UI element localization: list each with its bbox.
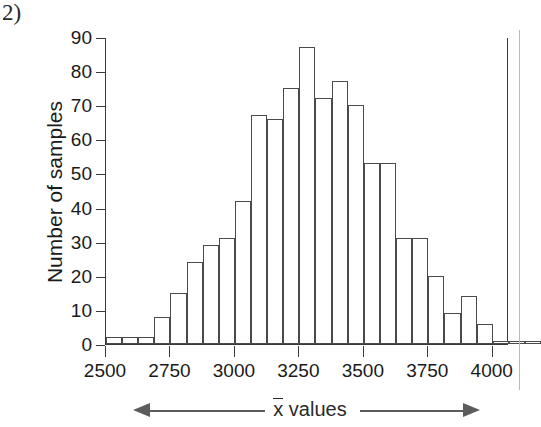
y-axis-tick-label: 50 <box>48 164 92 183</box>
histogram-bar <box>267 119 283 344</box>
histogram-bar <box>396 238 412 344</box>
y-axis-tick-label: 30 <box>48 233 92 252</box>
histogram-bar <box>122 337 138 344</box>
y-axis-tick <box>96 72 105 73</box>
histogram-bar <box>477 324 493 344</box>
y-axis-tick-label: 70 <box>48 96 92 115</box>
histogram-bar <box>251 115 267 344</box>
x-axis-annotation-label: x values <box>245 397 375 421</box>
x-axis-tick-label: 2750 <box>134 360 204 382</box>
histogram-bar <box>203 245 219 344</box>
x-axis-tick-label: 4000 <box>457 360 527 382</box>
y-axis-tick <box>96 174 105 175</box>
x-bar-symbol: x <box>273 397 283 421</box>
histogram-bar <box>332 81 348 344</box>
x-axis-tick <box>169 346 170 357</box>
y-axis-tick-label: 40 <box>48 199 92 218</box>
x-axis-tick-label: 3500 <box>328 360 398 382</box>
histogram-bar <box>106 337 122 344</box>
x-axis-annotation: x values <box>105 398 508 427</box>
histogram-bar <box>187 262 203 344</box>
histogram-bar <box>299 47 315 344</box>
y-axis-tick-label: 90 <box>48 28 92 47</box>
x-axis-tick <box>492 346 493 357</box>
right-arrow-icon <box>463 403 480 417</box>
left-arrow-icon <box>133 403 150 417</box>
y-axis-tick <box>96 243 105 244</box>
y-axis-tick-label: 10 <box>48 301 92 320</box>
histogram-bar <box>283 88 299 344</box>
histogram-bar <box>315 98 331 344</box>
y-axis-tick <box>96 140 105 141</box>
x-axis-tick <box>298 346 299 357</box>
histogram-bar <box>235 201 251 344</box>
plot-area <box>105 38 508 345</box>
x-axis-tick-label: 2500 <box>70 360 140 382</box>
histogram-bar <box>154 317 170 344</box>
x-axis-tick <box>105 346 106 357</box>
x-axis-tick-label: 3750 <box>392 360 462 382</box>
histogram-bar <box>509 341 525 344</box>
y-axis-tick-label: 80 <box>48 62 92 81</box>
x-axis-tick-label: 3000 <box>199 360 269 382</box>
histogram-bar <box>138 337 154 344</box>
histogram-bar <box>461 296 477 344</box>
y-axis-tick-label: 60 <box>48 130 92 149</box>
histogram-bar <box>380 163 396 344</box>
scan-edge-artifact <box>519 30 520 390</box>
x-axis-tick <box>234 346 235 357</box>
y-axis-tick <box>96 311 105 312</box>
histogram-bar <box>348 105 364 344</box>
y-axis-tick <box>96 345 105 346</box>
x-values-text: values <box>283 398 346 420</box>
x-axis-tick <box>427 346 428 357</box>
y-axis-tick <box>96 277 105 278</box>
y-axis-tick <box>96 38 105 39</box>
y-axis-tick-label: 0 <box>48 335 92 354</box>
histogram-bar <box>170 293 186 344</box>
x-axis-tick-label: 3250 <box>263 360 333 382</box>
y-axis-tick <box>96 209 105 210</box>
histogram-bar <box>444 313 460 344</box>
y-axis-tick <box>96 106 105 107</box>
histogram-bars <box>106 38 507 344</box>
histogram-bar <box>525 341 541 344</box>
histogram-bar <box>219 238 235 344</box>
histogram-bar <box>493 341 509 344</box>
histogram-bar <box>412 238 428 344</box>
histogram-bar <box>428 276 444 344</box>
y-axis-tick-label: 20 <box>48 267 92 286</box>
x-axis-tick <box>363 346 364 357</box>
histogram-bar <box>364 163 380 344</box>
right-arrow-line <box>360 410 470 412</box>
